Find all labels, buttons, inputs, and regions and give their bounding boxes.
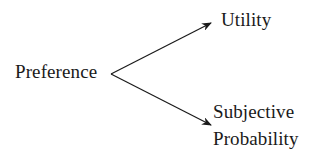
node-preference: Preference xyxy=(15,58,97,85)
node-subjective-probability: Subjective Probability xyxy=(213,98,299,152)
node-subjective-probability-line2: Probability xyxy=(213,125,299,152)
node-utility: Utility xyxy=(221,6,271,33)
arrow-to-utility xyxy=(111,23,211,74)
node-subjective-probability-line1: Subjective xyxy=(213,98,299,125)
arrow-to-subjective-probability xyxy=(111,74,211,125)
preference-diagram: Preference Utility Subjective Probabilit… xyxy=(0,0,320,162)
